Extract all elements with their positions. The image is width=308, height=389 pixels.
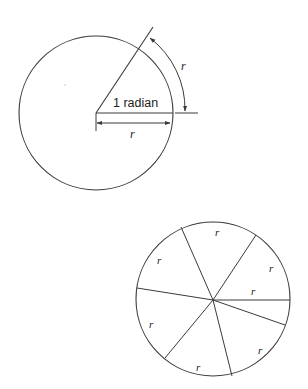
segment-label: r	[215, 226, 220, 238]
radial-line	[213, 235, 256, 300]
radius-label: r	[130, 127, 135, 141]
radial-line	[165, 300, 213, 358]
segment-label: r	[196, 361, 201, 373]
angle-label: 1 radian	[113, 96, 158, 110]
stray-dot	[64, 84, 65, 85]
arc-length-label: r	[181, 59, 186, 73]
segment-label: r	[258, 344, 263, 356]
segment-label: r	[157, 254, 162, 266]
segment-label: r	[269, 262, 274, 274]
radial-line	[213, 300, 232, 376]
radian-diagram: 1 radian r r r r r r r r r	[0, 0, 308, 389]
segment-label: r	[251, 285, 256, 297]
radial-line	[137, 288, 213, 300]
segment-label: r	[149, 318, 154, 330]
radial-line	[213, 300, 285, 325]
radian-definition-figure: 1 radian r r	[19, 27, 198, 190]
six-radians-figure: r r r r r r r	[136, 222, 290, 376]
radial-line	[181, 227, 213, 300]
